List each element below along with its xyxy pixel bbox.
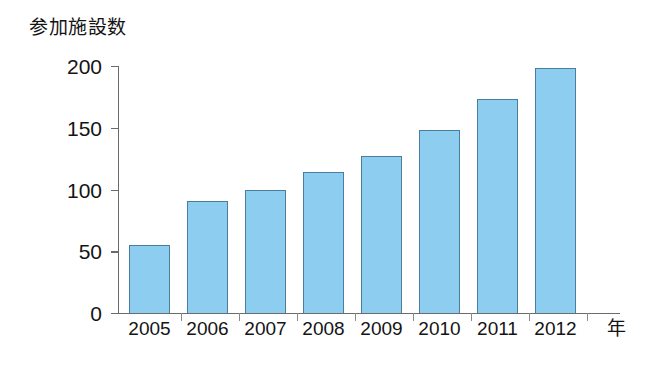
- bar-2006: [187, 201, 228, 313]
- bar-2009: [361, 156, 402, 313]
- y-tick-label-0: 0: [90, 303, 102, 324]
- x-tick-mark: [413, 313, 414, 321]
- x-label-2010: 2010: [418, 318, 460, 340]
- y-tick-200: 200: [111, 66, 118, 67]
- x-tick-mark: [181, 313, 182, 321]
- x-label-2006: 2006: [186, 318, 228, 340]
- bar-2011: [477, 99, 518, 313]
- bar-2007: [245, 190, 286, 314]
- x-label-2009: 2009: [360, 318, 402, 340]
- x-axis-line: [118, 313, 620, 314]
- plot-area: 200 150 100 50 0 2005 200: [118, 66, 620, 313]
- bar-chart: 参加施設数 200 150 100 50 0: [0, 0, 653, 369]
- y-tick-100: 100: [111, 190, 118, 191]
- y-tick-150: 150: [111, 128, 118, 129]
- x-axis-unit-label: 年: [607, 318, 626, 340]
- bar-2005: [129, 245, 170, 313]
- x-label-2011: 2011: [477, 318, 518, 340]
- x-tick-mark: [355, 313, 356, 321]
- x-tick-mark: [239, 313, 240, 321]
- x-tick-mark: [587, 313, 588, 321]
- y-axis-line: [118, 66, 119, 313]
- y-axis-title: 参加施設数: [29, 16, 127, 40]
- y-tick-0: 0: [111, 313, 118, 314]
- bar-2010: [419, 130, 460, 313]
- bar-2008: [303, 172, 344, 313]
- x-label-2005: 2005: [128, 318, 170, 340]
- bar-2012: [535, 68, 576, 313]
- y-tick-50: 50: [111, 251, 118, 252]
- y-tick-label-150: 150: [67, 117, 102, 138]
- y-tick-label-200: 200: [67, 56, 102, 77]
- y-tick-label-100: 100: [67, 179, 102, 200]
- x-label-2007: 2007: [244, 318, 286, 340]
- x-tick-mark: [529, 313, 530, 321]
- x-tick-mark: [297, 313, 298, 321]
- x-tick-mark: [471, 313, 472, 321]
- x-label-2008: 2008: [302, 318, 344, 340]
- y-tick-label-50: 50: [79, 241, 102, 262]
- x-label-2012: 2012: [534, 318, 576, 340]
